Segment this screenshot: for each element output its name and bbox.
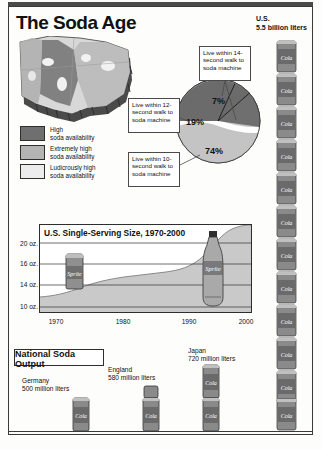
legend-swatch-high xyxy=(20,126,45,141)
country-japan-value: 720 million liters xyxy=(188,355,235,363)
svg-text:Cola: Cola xyxy=(75,413,87,419)
svg-text:Cola: Cola xyxy=(205,413,217,419)
svg-text:Cola: Cola xyxy=(281,385,293,391)
national-soda-output-box: National Soda Output xyxy=(14,349,104,366)
soda-bottle-2000-icon: Sprite xyxy=(200,231,226,307)
callout-10-second: Live within 10-second walk to soda machi… xyxy=(128,152,180,187)
infographic-poster: The Soda Age U.S. 5.5 billion liters xyxy=(0,0,322,450)
us-region-label: U.S. xyxy=(256,14,318,23)
xtick-1970: 1970 xyxy=(39,318,73,325)
legend-item: Extremely high soda availability xyxy=(20,145,132,160)
japan-can-stack-icon: Cola Cola xyxy=(200,364,222,432)
country-england-name: England xyxy=(108,366,155,374)
us-total-callout: U.S. 5.5 billion liters xyxy=(256,14,318,32)
country-england-label: England 580 million liters xyxy=(108,366,155,383)
svg-text:Sprite: Sprite xyxy=(205,265,221,272)
country-japan-label: Japan 720 million liters xyxy=(188,347,235,364)
svg-text:Cola: Cola xyxy=(281,187,293,193)
chart-title: U.S. Single-Serving Size, 1970-2000 xyxy=(44,228,185,238)
national-soda-output-heading: National Soda Output xyxy=(15,350,105,367)
map-legend: High soda availability Extremely high so… xyxy=(20,126,132,184)
svg-text:Cola: Cola xyxy=(281,319,293,325)
svg-text:Cola: Cola xyxy=(281,88,293,94)
soda-can-1970-icon: Sprite xyxy=(65,252,84,291)
legend-high-line2: soda availability xyxy=(50,134,94,141)
legend-label-ludicrously-high: Ludicrously high soda availability xyxy=(50,164,96,179)
legend-ext-line1: Extremely high xyxy=(50,145,92,152)
svg-text:Cola: Cola xyxy=(281,253,293,259)
legend-swatch-extremely-high xyxy=(20,145,45,160)
country-japan-name: Japan xyxy=(188,347,235,355)
svg-text:Cola: Cola xyxy=(281,55,293,61)
xtick-1980: 1980 xyxy=(106,318,140,325)
legend-item: Ludicrously high soda availability xyxy=(20,164,132,179)
legend-label-extremely-high: Extremely high soda availability xyxy=(50,145,94,160)
country-england-value: 580 million liters xyxy=(108,374,155,382)
country-germany-name: Germany xyxy=(22,377,69,385)
legend-swatch-ludicrously-high xyxy=(20,164,45,179)
country-germany-label: Germany 500 million liters xyxy=(22,377,69,394)
callout-12-second: Live within 12-second walk to soda machi… xyxy=(128,98,180,133)
page-title: The Soda Age xyxy=(16,12,136,34)
us-can-stack-icon: Cola Cola Cola Cola xyxy=(274,40,300,432)
ytick-10oz: 10 oz. xyxy=(8,303,38,310)
pie-label-74-percent: 74% xyxy=(205,146,223,156)
pie-label-7-percent: 7% xyxy=(212,96,225,106)
legend-high-line1: High xyxy=(50,126,63,133)
svg-text:Cola: Cola xyxy=(281,413,293,419)
callout-14-second: Live within 14-second walk to soda machi… xyxy=(199,46,251,81)
svg-text:Cola: Cola xyxy=(281,154,293,160)
svg-text:Cola: Cola xyxy=(281,121,293,127)
map-container xyxy=(12,36,144,128)
xtick-1990: 1990 xyxy=(172,318,206,325)
us-region-value: 5.5 billion liters xyxy=(256,23,318,32)
xtick-2000: 2000 xyxy=(229,318,263,325)
svg-text:Cola: Cola xyxy=(281,352,293,358)
ytick-14oz: 14 oz. xyxy=(8,281,38,288)
svg-text:Sprite: Sprite xyxy=(67,271,82,277)
svg-text:Cola: Cola xyxy=(281,220,293,226)
output-baseline xyxy=(9,431,312,432)
united-states-map xyxy=(12,36,144,128)
legend-lud-line2: soda availability xyxy=(50,172,94,179)
svg-text:Cola: Cola xyxy=(205,380,217,386)
pie-label-19-percent: 19% xyxy=(186,117,204,127)
england-can-stack-icon: Cola xyxy=(140,385,162,432)
svg-text:Cola: Cola xyxy=(145,413,157,419)
germany-can-stack-icon: Cola xyxy=(70,396,92,432)
svg-text:Cola: Cola xyxy=(281,286,293,292)
legend-label-high: High soda availability xyxy=(50,126,94,141)
ytick-16oz: 16 oz. xyxy=(8,260,38,267)
ytick-20oz: 20 oz. xyxy=(8,240,38,247)
country-germany-value: 500 million liters xyxy=(22,385,69,393)
legend-lud-line1: Ludicrously high xyxy=(50,164,96,171)
legend-ext-line2: soda availability xyxy=(50,153,94,160)
legend-item: High soda availability xyxy=(20,126,132,141)
